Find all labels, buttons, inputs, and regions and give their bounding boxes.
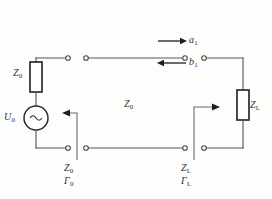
terminal-load-top-inner bbox=[202, 56, 207, 61]
terminal-line-top-right bbox=[183, 56, 188, 61]
terminal-source-top-inner bbox=[66, 56, 71, 61]
load-impedance-body bbox=[237, 90, 249, 120]
terminal-line-bottom-right bbox=[183, 146, 188, 151]
port0-impedance-label: Z0 bbox=[64, 163, 73, 173]
source-series-impedance-body bbox=[30, 62, 42, 92]
port0-reflection-label: Γ0 bbox=[64, 176, 73, 186]
reflected-wave-label: b1 bbox=[189, 57, 198, 67]
portL-impedance-label: ZL bbox=[181, 163, 191, 173]
terminal-source-bottom-inner bbox=[66, 146, 71, 151]
source-branch bbox=[24, 58, 68, 148]
terminal-dots bbox=[66, 56, 207, 151]
incident-wave-arrow-glyph bbox=[158, 38, 187, 44]
reflected-wave-arrow-glyph bbox=[157, 60, 186, 66]
terminal-load-bottom-inner bbox=[202, 146, 207, 151]
portL-reflection-label: ΓL bbox=[181, 176, 191, 186]
transmission-line-wires bbox=[86, 58, 185, 148]
load-branch bbox=[204, 58, 249, 148]
circuit-diagram: Z0 U0 Z0 ZL a1 b1 Z0 Γ0 ZL ΓL bbox=[0, 0, 272, 199]
incident-wave-label: a1 bbox=[189, 35, 198, 45]
line-impedance-label: Z0 bbox=[124, 99, 133, 109]
circuit-schematic-canvas bbox=[0, 0, 272, 199]
source-voltage-label: U0 bbox=[4, 112, 15, 122]
load-impedance-label: ZL bbox=[250, 100, 260, 110]
terminal-line-top-left bbox=[84, 56, 89, 61]
source-reference-arrow-glyph bbox=[62, 109, 77, 160]
load-reference-arrow-glyph bbox=[194, 103, 220, 160]
source-impedance-label: Z0 bbox=[13, 68, 22, 78]
terminal-line-bottom-left bbox=[84, 146, 89, 151]
